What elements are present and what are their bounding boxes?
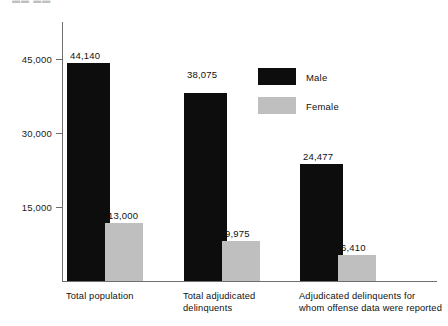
bar-male-total-population bbox=[67, 63, 110, 281]
legend-swatch-male bbox=[258, 68, 296, 85]
bar-value-female-total-population: 13,000 bbox=[108, 210, 138, 221]
bar-male-offense-reported bbox=[300, 164, 343, 281]
y-tick-mark-15000 bbox=[56, 207, 63, 208]
category-label-total-adjudicated: Total adjudicated delinquents bbox=[183, 291, 255, 314]
category-line: whom offense data were reported bbox=[299, 303, 442, 315]
legend-swatch-female bbox=[258, 97, 296, 114]
category-line: delinquents bbox=[183, 303, 255, 315]
bar-value-female-offense-reported: 6,410 bbox=[341, 242, 366, 253]
bar-male-total-adjudicated bbox=[184, 93, 227, 281]
bar-female-total-population bbox=[105, 223, 143, 281]
category-line: Total adjudicated bbox=[183, 291, 255, 303]
legend-label-male: Male bbox=[306, 71, 327, 82]
category-label-total-population: Total population bbox=[66, 291, 134, 303]
bar-female-total-adjudicated bbox=[222, 241, 260, 281]
bar-value-male-total-population: 44,140 bbox=[70, 50, 100, 61]
legend-label-female: Female bbox=[306, 100, 339, 111]
clipped-text-artifact: ▬▬ ▬▬ bbox=[12, 0, 51, 5]
category-line: Adjudicated delinquents for bbox=[299, 291, 442, 303]
bar-value-male-offense-reported: 24,477 bbox=[303, 151, 333, 162]
y-tick-label-30000: 30,000 bbox=[22, 128, 52, 139]
y-tick-mark-30000 bbox=[56, 133, 63, 134]
y-tick-label-15000: 15,000 bbox=[22, 202, 52, 213]
y-tick-mark-45000 bbox=[56, 59, 63, 60]
bar-value-male-total-adjudicated: 38,075 bbox=[187, 69, 217, 80]
y-tick-label-45000: 45,000 bbox=[22, 54, 52, 65]
chart-page: ▬▬ ▬▬ 45,000 30,000 15,000 44,140 13,000… bbox=[0, 0, 448, 326]
bar-value-female-total-adjudicated: 9,975 bbox=[225, 228, 250, 239]
bar-female-offense-reported bbox=[338, 255, 376, 281]
category-line: Total population bbox=[66, 291, 134, 303]
category-label-offense-reported: Adjudicated delinquents for whom offense… bbox=[299, 291, 442, 314]
legend-item-female: Female bbox=[258, 97, 378, 114]
y-axis-line bbox=[62, 22, 63, 281]
legend-item-male: Male bbox=[258, 68, 378, 85]
